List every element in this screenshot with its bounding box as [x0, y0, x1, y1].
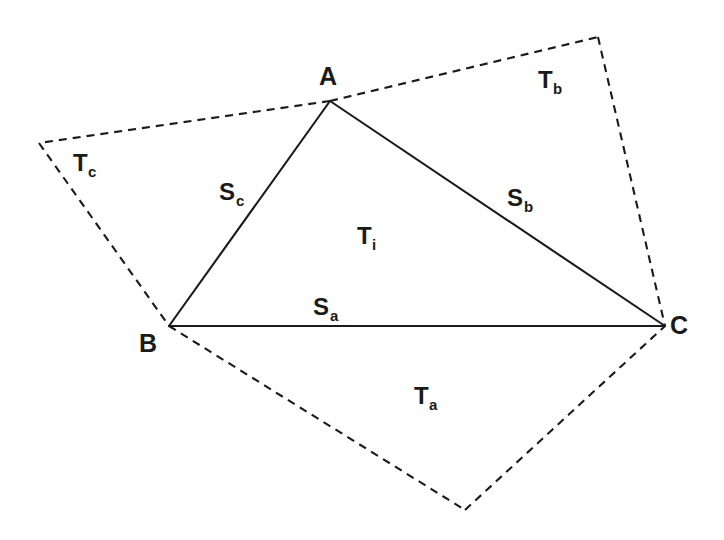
triangle-decomposition-figure: A B C S a S b S c T i: [0, 0, 724, 540]
region-label-t-i: T i: [357, 222, 376, 253]
region-label-t-i-main: T: [357, 222, 372, 249]
triangle-edge-ab: [169, 101, 330, 326]
dashed-edge-bottom-to-c: [465, 326, 665, 510]
dashed-edge-left-to-b: [39, 143, 169, 326]
solid-edge-group: [169, 101, 665, 326]
dashed-edge-a-to-left: [39, 101, 330, 143]
side-label-s-b-sub: b: [524, 198, 533, 215]
side-label-s-b: S b: [507, 184, 533, 215]
dashed-edge-group: [39, 37, 665, 510]
triangle-edge-ac: [330, 101, 665, 326]
region-label-t-a: T a: [414, 382, 438, 413]
dashed-edge-b-to-bottom: [169, 326, 465, 510]
side-label-s-a-sub: a: [330, 307, 339, 324]
region-label-t-a-sub: a: [429, 396, 438, 413]
region-label-t-c-sub: c: [88, 163, 96, 180]
side-label-s-c-main: S: [219, 178, 235, 205]
vertex-label-b: B: [139, 329, 157, 357]
region-label-t-c-main: T: [73, 149, 88, 176]
side-label-s-a-main: S: [313, 293, 329, 320]
side-label-s-b-main: S: [507, 184, 523, 211]
region-label-t-c: T c: [73, 149, 96, 180]
region-label-t-b-main: T: [538, 66, 553, 93]
region-label-t-a-main: T: [414, 382, 429, 409]
side-label-s-a: S a: [313, 293, 339, 324]
vertex-label-a: A: [319, 62, 337, 90]
diagram-canvas: A B C S a S b S c T i: [0, 0, 724, 540]
side-label-s-c-sub: c: [236, 192, 244, 209]
dashed-edge-topright-to-c: [598, 37, 665, 326]
region-label-t-b: T b: [538, 66, 562, 97]
region-label-t-i-sub: i: [372, 236, 376, 253]
vertex-label-c: C: [670, 311, 688, 339]
region-label-t-b-sub: b: [553, 80, 562, 97]
vertex-label-group: A B C: [139, 62, 688, 357]
side-label-s-c: S c: [219, 178, 244, 209]
